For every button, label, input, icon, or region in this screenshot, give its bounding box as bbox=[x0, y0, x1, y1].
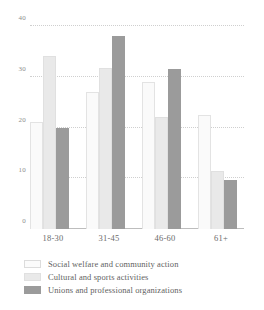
y-tick-label-10: 10 bbox=[19, 166, 26, 174]
x-axis-labels: 18-3031-4546-6061+ bbox=[30, 233, 244, 243]
plot-area: 010203040 bbox=[30, 26, 244, 229]
bar-groups bbox=[30, 26, 244, 229]
legend-swatch-2 bbox=[24, 286, 41, 294]
x-axis-label-61+: 61+ bbox=[198, 233, 244, 243]
bar-group-18-30 bbox=[30, 26, 76, 229]
y-tick-label-30: 30 bbox=[19, 65, 26, 73]
bar-18-30-series2[interactable] bbox=[56, 128, 69, 230]
bar-46-60-series2[interactable] bbox=[168, 69, 181, 229]
bar-61+-series2[interactable] bbox=[224, 180, 237, 229]
legend-swatch-0 bbox=[24, 260, 41, 268]
legend-label-2: Unions and professional organizations bbox=[48, 285, 182, 295]
x-axis-label-31-45: 31-45 bbox=[86, 233, 132, 243]
bar-18-30-series1[interactable] bbox=[43, 56, 56, 229]
legend-item-1[interactable]: Cultural and sports activities bbox=[24, 272, 182, 282]
x-axis-label-46-60: 46-60 bbox=[142, 233, 188, 243]
bar-31-45-series2[interactable] bbox=[112, 36, 125, 229]
bar-46-60-series1[interactable] bbox=[155, 117, 168, 229]
x-axis-label-18-30: 18-30 bbox=[30, 233, 76, 243]
y-tick-label-40: 40 bbox=[19, 14, 26, 22]
chart-legend: Social welfare and community actionCultu… bbox=[24, 259, 182, 295]
bar-group-31-45 bbox=[86, 26, 132, 229]
y-tick-label-20: 20 bbox=[19, 116, 26, 124]
bar-61+-series1[interactable] bbox=[211, 171, 224, 229]
legend-swatch-1 bbox=[24, 273, 41, 281]
bar-61+-series0[interactable] bbox=[198, 115, 211, 229]
legend-label-1: Cultural and sports activities bbox=[48, 272, 149, 282]
bar-group-46-60 bbox=[142, 26, 188, 229]
bar-18-30-series0[interactable] bbox=[30, 122, 43, 229]
bar-chart: 010203040 18-3031-4546-6061+ Social welf… bbox=[0, 0, 264, 310]
bar-46-60-series0[interactable] bbox=[142, 82, 155, 229]
bar-31-45-series0[interactable] bbox=[86, 92, 99, 229]
legend-item-2[interactable]: Unions and professional organizations bbox=[24, 285, 182, 295]
bar-group-61+ bbox=[198, 26, 244, 229]
bar-31-45-series1[interactable] bbox=[99, 68, 112, 229]
legend-item-0[interactable]: Social welfare and community action bbox=[24, 259, 182, 269]
y-tick-label-0: 0 bbox=[22, 217, 26, 225]
legend-label-0: Social welfare and community action bbox=[48, 259, 179, 269]
